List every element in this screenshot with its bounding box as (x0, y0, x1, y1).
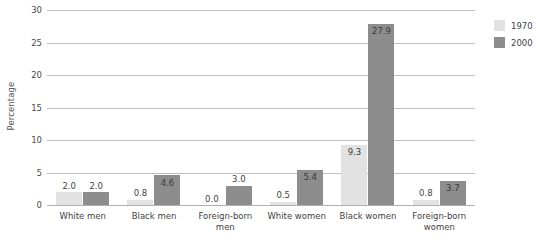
bar-group-bars: 0.84.6 (118, 10, 189, 205)
x-axis-category-label: Foreign-bornwomen (404, 208, 475, 232)
bar-value-label: 2.0 (89, 182, 103, 191)
x-axis-category-label: Black women (332, 208, 403, 232)
bar-group: 0.55.4 (261, 10, 332, 205)
x-axis-category-labels: White menBlack menForeign-bornmenWhite w… (47, 208, 475, 232)
legend-swatch-icon (494, 20, 505, 31)
bar-group: 9.327.9 (332, 10, 403, 205)
category-label-line: Black women (332, 211, 403, 222)
y-axis-tick-label: 15 (31, 103, 42, 113)
bar-column[interactable]: 3.0 (226, 10, 252, 205)
category-label-line: Black men (118, 211, 189, 222)
legend-item[interactable]: 1970 (494, 20, 533, 31)
bar-column[interactable]: 4.6 (154, 10, 180, 205)
bar-chart: Percentage 051015202530 2.02.00.84.60.03… (0, 0, 542, 251)
category-label-line: Foreign-born (190, 211, 261, 222)
bar-column[interactable]: 2.0 (83, 10, 109, 205)
bar-column[interactable]: 2.0 (56, 10, 82, 205)
bar-column[interactable]: 3.7 (440, 10, 466, 205)
legend-label: 2000 (511, 38, 533, 48)
bar-value-label: 5.4 (303, 173, 317, 182)
y-axis-tick-label: 30 (31, 5, 42, 15)
bar-group-bars: 2.02.0 (47, 10, 118, 205)
bar-group-bars: 0.03.0 (190, 10, 261, 205)
bar[interactable] (270, 202, 296, 205)
bar[interactable] (127, 200, 153, 205)
bar[interactable] (226, 186, 252, 206)
bar-column[interactable]: 9.3 (341, 10, 367, 205)
bar-group-bars: 0.83.7 (404, 10, 475, 205)
bar-value-label: 3.0 (232, 175, 246, 184)
bar-column[interactable]: 0.8 (413, 10, 439, 205)
category-label-line: women (404, 222, 475, 233)
category-label-line: White men (47, 211, 118, 222)
bar-column[interactable]: 27.9 (368, 10, 394, 205)
category-label-line: White women (261, 211, 332, 222)
bar-value-label: 4.6 (161, 179, 175, 188)
x-axis-category-label: White men (47, 208, 118, 232)
bar-group: 0.83.7 (404, 10, 475, 205)
bar-value-label: 3.7 (446, 184, 460, 193)
category-label-line: men (190, 222, 261, 233)
bar-column[interactable]: 0.0 (199, 10, 225, 205)
bar-column[interactable]: 0.5 (270, 10, 296, 205)
bar[interactable] (56, 192, 82, 205)
bar-column[interactable]: 0.8 (127, 10, 153, 205)
bar-column[interactable]: 5.4 (297, 10, 323, 205)
x-axis-category-label: Black men (118, 208, 189, 232)
bar-groups: 2.02.00.84.60.03.00.55.49.327.90.83.7 (47, 10, 475, 205)
bar-value-label: 9.3 (348, 148, 362, 157)
y-axis-tick-label: 5 (37, 168, 42, 178)
bar-group: 0.03.0 (190, 10, 261, 205)
bar[interactable] (83, 192, 109, 205)
y-axis-tick-label: 0 (37, 200, 42, 210)
y-axis-tick-label: 25 (31, 38, 42, 48)
bar[interactable] (368, 24, 394, 205)
bar-value-label: 2.0 (62, 182, 76, 191)
bar-value-label: 0.8 (419, 189, 433, 198)
bar-group: 2.02.0 (47, 10, 118, 205)
legend-swatch-icon (494, 37, 505, 48)
x-axis-category-label: Foreign-bornmen (190, 208, 261, 232)
legend-label: 1970 (511, 21, 533, 31)
bar-value-label: 0.5 (276, 191, 290, 200)
bar-group-bars: 9.327.9 (332, 10, 403, 205)
gridline: 0 (47, 205, 475, 206)
y-axis-tick-label: 20 (31, 70, 42, 80)
x-axis-category-label: White women (261, 208, 332, 232)
bar-value-label: 0.0 (205, 195, 219, 204)
bar[interactable] (413, 200, 439, 205)
y-axis-title-label: Percentage (6, 82, 16, 131)
bar-group: 0.84.6 (118, 10, 189, 205)
bar-group-bars: 0.55.4 (261, 10, 332, 205)
y-axis-tick-label: 10 (31, 135, 42, 145)
bar-value-label: 0.8 (134, 189, 148, 198)
bar-value-label: 27.9 (372, 27, 391, 36)
y-axis-title: Percentage (0, 0, 22, 212)
category-label-line: Foreign-born (404, 211, 475, 222)
chart-legend: 19702000 (494, 20, 533, 48)
legend-item[interactable]: 2000 (494, 37, 533, 48)
